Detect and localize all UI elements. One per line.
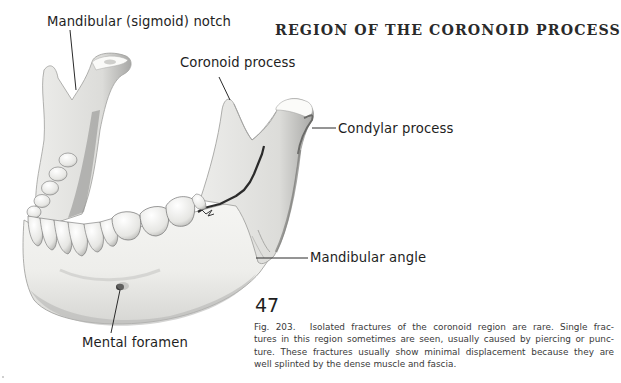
label-mental-foramen: Mental foramen: [82, 335, 188, 350]
scan-speck: [2, 376, 4, 378]
label-mandibular-notch: Mandibular (sigmoid) notch: [47, 14, 231, 29]
page-number: 47: [255, 294, 279, 316]
figure-number: Fig. 203.: [254, 322, 295, 332]
leader-coronoid: [219, 77, 230, 100]
caption-line-2: tures in this region sometimes are seen,…: [254, 333, 614, 345]
label-condylar-process: Condylar process: [338, 121, 453, 136]
caption-line-4: well splinted by the dense muscle and fa…: [254, 358, 614, 370]
label-mandibular-angle: Mandibular angle: [310, 250, 426, 265]
leader-notch: [70, 30, 76, 90]
figure-caption: Fig. 203. Isolated fractures of the coro…: [254, 321, 614, 370]
caption-line-3: ture. These fractures usually show minim…: [254, 346, 614, 358]
caption-line-1: Fig. 203. Isolated fractures of the coro…: [254, 321, 614, 333]
label-coronoid-process: Coronoid process: [180, 55, 295, 70]
far-ramus: [27, 53, 131, 228]
